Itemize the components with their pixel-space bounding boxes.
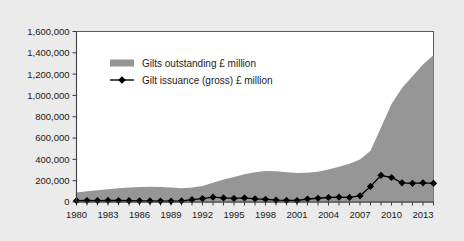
x-tick-label: 1998 (255, 209, 276, 220)
x-tick-label: 2010 (381, 209, 402, 220)
y-tick-label: 400,000 (35, 154, 69, 165)
y-tick-label: 800,000 (35, 111, 69, 122)
x-tick-label: 1986 (129, 209, 150, 220)
y-tick-label: 200,000 (35, 175, 69, 186)
chart-screenshot: 0200,000400,000600,000800,0001,000,0001,… (0, 0, 464, 241)
x-tick-label: 1995 (223, 209, 244, 220)
chart-canvas: 0200,000400,000600,000800,0001,000,0001,… (0, 0, 464, 241)
x-tick-label: 2007 (349, 209, 370, 220)
legend-item-label: Gilts outstanding £ million (142, 58, 256, 69)
x-tick-label: 1980 (66, 209, 87, 220)
y-tick-label: 600,000 (35, 132, 69, 143)
x-tick-label: 2001 (286, 209, 307, 220)
legend-swatch-area (110, 60, 134, 67)
y-axis-ticks: 0200,000400,000600,000800,0001,000,0001,… (27, 26, 76, 208)
gilts-chart-figure: 0200,000400,000600,000800,0001,000,0001,… (0, 0, 464, 241)
y-tick-label: 1,400,000 (27, 47, 69, 58)
y-tick-label: 1,600,000 (27, 26, 69, 37)
y-tick-label: 0 (64, 196, 69, 207)
x-tick-label: 1992 (192, 209, 213, 220)
x-tick-label: 2013 (412, 209, 433, 220)
legend-item-label: Gilt issuance (gross) £ million (142, 75, 273, 86)
y-tick-label: 1,200,000 (27, 69, 69, 80)
y-tick-label: 1,000,000 (27, 90, 69, 101)
x-tick-label: 1989 (160, 209, 181, 220)
x-tick-label: 1983 (97, 209, 118, 220)
x-tick-label: 2004 (318, 209, 339, 220)
